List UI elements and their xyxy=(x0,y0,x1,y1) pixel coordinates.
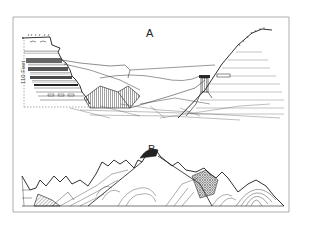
panel-b-drawing xyxy=(22,149,284,206)
rock-pillar xyxy=(186,75,212,116)
panel-b-label: B xyxy=(148,143,155,155)
scale-label: 110 Feet xyxy=(20,61,26,84)
panel-a-label: A xyxy=(146,27,153,39)
panel-a-drawing xyxy=(22,27,284,120)
